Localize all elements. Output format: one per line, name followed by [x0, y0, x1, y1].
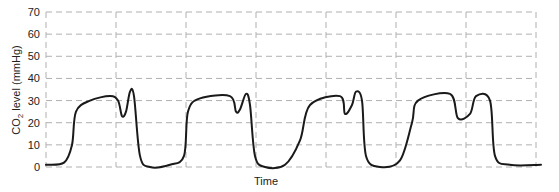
y-axis-label-main: CO — [10, 118, 22, 135]
x-axis-label: Time — [254, 175, 278, 187]
y-tick-label: 10 — [28, 139, 40, 151]
y-tick-label: 20 — [28, 117, 40, 129]
y-tick-label: 0 — [34, 161, 40, 173]
y-tick-label: 50 — [28, 50, 40, 62]
y-axis-label-rest: level (mmHg) — [10, 45, 22, 113]
y-tick-label: 30 — [28, 95, 40, 107]
vertical-gridlines — [46, 12, 536, 167]
horizontal-gridlines — [46, 12, 536, 167]
y-tick-label: 70 — [28, 6, 40, 18]
y-tick-label: 60 — [28, 28, 40, 40]
y-axis-label: CO2 level (mmHg) — [10, 45, 25, 134]
y-tick-label: 40 — [28, 72, 40, 84]
co2-capnogram-chart: 010203040506070 Time CO2 level (mmHg) — [0, 0, 559, 192]
y-axis-tick-labels: 010203040506070 — [28, 6, 40, 173]
